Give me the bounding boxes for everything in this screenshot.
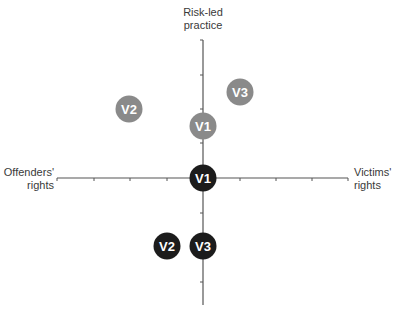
- gray-point-v3-label: V3: [232, 85, 248, 100]
- black-point-v2-label: V2: [159, 239, 175, 254]
- gray-point-v2: V2: [116, 96, 143, 123]
- gray-point-v3: V3: [227, 79, 254, 106]
- gray-point-v1: V1: [190, 113, 217, 140]
- black-point-v2: V2: [154, 233, 181, 260]
- gray-point-v1-label: V1: [195, 119, 211, 134]
- black-point-v1: V1: [190, 165, 217, 192]
- black-point-v3-label: V3: [195, 239, 211, 254]
- black-point-v1-label: V1: [195, 171, 211, 186]
- black-point-v3: V3: [190, 233, 217, 260]
- gray-point-v2-label: V2: [121, 102, 137, 117]
